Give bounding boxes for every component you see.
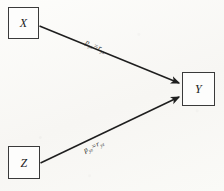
node-x-label: X <box>20 17 28 29</box>
node-z: Z <box>8 146 40 179</box>
edge-x-to-y <box>40 26 180 83</box>
node-x: X <box>8 7 39 39</box>
node-y: Y <box>182 72 215 106</box>
node-y-label: Y <box>195 83 202 95</box>
edge-z-to-y <box>41 97 180 163</box>
path-diagram-canvas: X Y Z pyx=ryx pyz=ryz <box>0 0 224 191</box>
node-z-label: Z <box>21 157 28 169</box>
